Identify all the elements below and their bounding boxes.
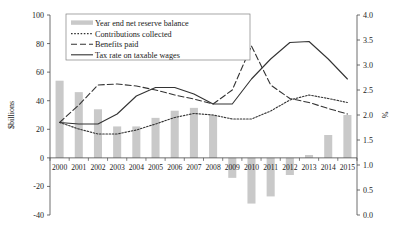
x-tick-label-2013: 2013 [301,163,316,172]
chart-legend: Year end net reserve balanceContribution… [66,14,250,60]
right-tick-label-0.5: 0.5 [363,186,373,195]
left-axis-title: $billions [7,101,16,129]
legend-label-1: Contributions collected [95,30,172,39]
right-tick-label-1.5: 1.5 [363,136,373,145]
legend-label-2: Benefits paid [95,40,138,49]
net-reserve-balance-chart: -40-20020406080100 0.00.51.01.52.02.53.0… [0,0,398,252]
left-tick-label-80: 80 [36,40,44,49]
x-tick-label-2005: 2005 [148,163,163,172]
right-axis-title: % [381,111,390,118]
bar-2015 [343,115,351,158]
x-tick-label-2000: 2000 [52,163,67,172]
bar-2013 [305,155,313,158]
right-tick-label-2: 2.0 [363,111,373,120]
chart-container: -40-20020406080100 0.00.51.01.52.02.53.0… [0,0,398,252]
right-tick-label-3.5: 3.5 [363,36,373,45]
legend-label-0: Year end net reserve balance [95,19,189,28]
x-tick-label-2009: 2009 [225,163,240,172]
x-tick-label-2014: 2014 [321,163,336,172]
right-tick-label-1: 1.0 [363,161,373,170]
left-tick-label-0: 0 [40,154,44,163]
left-tick-label-20: 20 [36,125,44,134]
bar-2008 [209,115,217,158]
x-tick-label-2008: 2008 [205,163,220,172]
x-tick-label-2004: 2004 [129,163,144,172]
left-tick-label-60: 60 [36,68,44,77]
legend-label-3: Tax rate on taxable wages [95,51,180,60]
x-tick-label-2010: 2010 [244,163,259,172]
left-tick-label--20: -20 [33,182,44,191]
right-tick-label-3: 3.0 [363,61,373,70]
bar-2007 [190,108,198,158]
legend-marker-bar-swatch [71,20,93,24]
right-tick-label-0: 0.0 [363,211,373,220]
x-tick-label-2007: 2007 [186,163,201,172]
x-tick-label-2001: 2001 [71,163,86,172]
right-tick-label-2.5: 2.5 [363,86,373,95]
x-tick-label-2003: 2003 [110,163,125,172]
x-tick-label-2006: 2006 [167,163,182,172]
x-tick-label-2015: 2015 [340,163,355,172]
left-tick-label--40: -40 [33,211,44,220]
x-tick-label-2011: 2011 [263,163,278,172]
left-tick-label-40: 40 [36,97,44,106]
x-tick-label-2012: 2012 [282,163,297,172]
bar-2004 [132,126,140,157]
bar-2014 [324,135,332,158]
bar-2003 [113,126,121,157]
left-tick-label-100: 100 [32,11,44,20]
x-tick-label-2002: 2002 [90,163,105,172]
right-tick-label-4: 4.0 [363,11,373,20]
